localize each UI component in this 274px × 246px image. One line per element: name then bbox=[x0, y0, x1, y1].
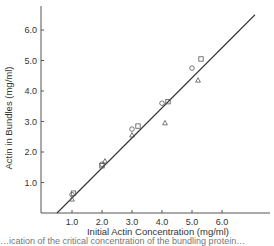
triangle-marker bbox=[130, 133, 135, 137]
square-marker bbox=[136, 124, 140, 128]
figure-caption-fragment: …ication of the critical concentration o… bbox=[0, 236, 274, 246]
x-tick-label: 1.0 bbox=[66, 217, 79, 227]
y-tick-label: 4.0 bbox=[24, 86, 37, 96]
square-marker bbox=[199, 57, 203, 61]
y-tick-label: 3.0 bbox=[24, 117, 37, 127]
fit-line bbox=[57, 15, 255, 213]
axes bbox=[41, 6, 270, 213]
y-tick-label: 2.0 bbox=[24, 147, 37, 157]
triangle-marker bbox=[196, 78, 201, 82]
triangle-marker bbox=[70, 197, 75, 201]
y-axis-title: Actin in Bundles (mg/ml) bbox=[3, 67, 14, 170]
circle-marker bbox=[160, 101, 165, 106]
circle-marker bbox=[130, 127, 135, 132]
regression-line bbox=[57, 15, 255, 213]
circle-marker bbox=[190, 66, 195, 71]
y-tick-label: 5.0 bbox=[24, 56, 37, 66]
triangle-marker bbox=[103, 159, 108, 163]
y-tick-label: 6.0 bbox=[24, 25, 37, 35]
data-points bbox=[70, 57, 204, 201]
triangle-marker bbox=[163, 120, 168, 124]
y-tick-label: 1.0 bbox=[24, 178, 37, 188]
